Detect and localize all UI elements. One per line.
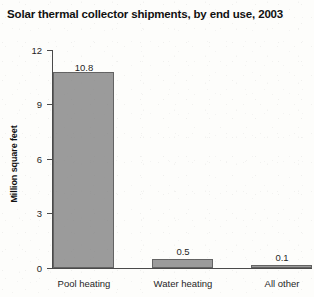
x-axis-line	[53, 268, 312, 269]
x-category-label-pool-heating: Pool heating	[58, 278, 111, 289]
bar-value-pool-heating: 10.8	[75, 62, 94, 73]
bar-value-all-other: 0.1	[275, 252, 288, 263]
chart-title: Solar thermal collector shipments, by en…	[7, 8, 283, 20]
bar-pool-heating[interactable]	[53, 72, 114, 268]
plot-area	[53, 50, 312, 268]
bar-value-water-heating: 0.5	[176, 246, 189, 257]
bar-water-heating[interactable]	[152, 259, 213, 268]
y-tick-label-3: 3	[20, 208, 42, 219]
bar-chart-figure: Solar thermal collector shipments, by en…	[0, 0, 314, 297]
bar-all-other[interactable]	[251, 265, 312, 268]
y-axis-title: Million square feet	[9, 114, 19, 214]
y-tick-label-0: 0	[20, 263, 42, 274]
y-tick-label-12: 12	[20, 45, 42, 56]
y-tick-label-6: 6	[20, 154, 42, 165]
y-tick-label-9: 9	[20, 99, 42, 110]
x-category-label-water-heating: Water heating	[154, 278, 213, 289]
y-tick-mark-0	[47, 268, 53, 269]
x-category-label-all-other: All other	[265, 278, 300, 289]
